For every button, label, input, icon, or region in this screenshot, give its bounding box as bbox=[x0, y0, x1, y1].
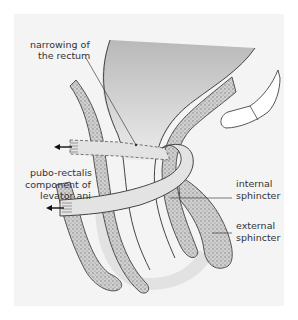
label-puborectalis-line1: pubo-rectalis bbox=[30, 167, 92, 178]
label-narrowing-line2: the rectum bbox=[38, 50, 90, 61]
label-external-line1: external bbox=[236, 220, 275, 231]
label-puborectalis-line3: levator ani bbox=[40, 190, 91, 201]
label-internal-line1: internal bbox=[236, 178, 272, 189]
pull-arrow-upper bbox=[54, 144, 72, 150]
label-internal-line2: sphincter bbox=[236, 190, 280, 201]
label-external-line2: sphincter bbox=[236, 232, 280, 243]
label-narrowing-line1: narrowing of bbox=[30, 39, 90, 50]
label-puborectalis-line2: component of bbox=[25, 179, 92, 190]
leader-narrowing-dot bbox=[135, 144, 137, 146]
anorectal-diagram: narrowing of the rectum pubo-rectalis co… bbox=[0, 0, 298, 320]
